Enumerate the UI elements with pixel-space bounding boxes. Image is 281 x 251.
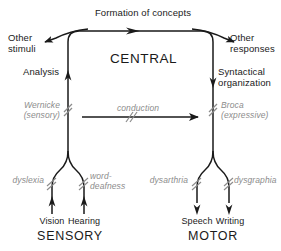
other-responses-label: Other responses [230, 33, 280, 54]
other-stimuli-label: Other stimuli [8, 33, 52, 54]
sensory-fork [49, 151, 88, 214]
syntactical-organization-label: Syntactical organization [218, 67, 280, 88]
hearing-label: Hearing [60, 216, 108, 227]
formation-of-concepts-label: Formation of concepts [84, 8, 202, 19]
right-central-trunk [136, 31, 216, 151]
wernicke-area-label: Wernicke (sensory) [4, 101, 60, 120]
diagram-canvas: Formation of concepts Other stimuli Othe… [0, 0, 281, 251]
central-label: CENTRAL [110, 54, 182, 65]
sensory-section-label: SENSORY [32, 231, 108, 242]
motor-section-label: MOTOR [176, 231, 250, 242]
left-central-trunk [65, 31, 136, 151]
conduction-label: conduction [108, 104, 168, 114]
dysgraphia-lesion-label: dysgraphia [234, 176, 281, 186]
writing-label: Writing [208, 216, 252, 227]
dysarthria-lesion-label: dysarthria [134, 176, 188, 186]
broca-area-label: Broca (expressive) [221, 101, 279, 120]
analysis-label: Analysis [23, 67, 67, 78]
dyslexia-lesion-label: dyslexia [0, 176, 44, 186]
word-deafness-lesion-label: word- deafness [90, 172, 136, 191]
